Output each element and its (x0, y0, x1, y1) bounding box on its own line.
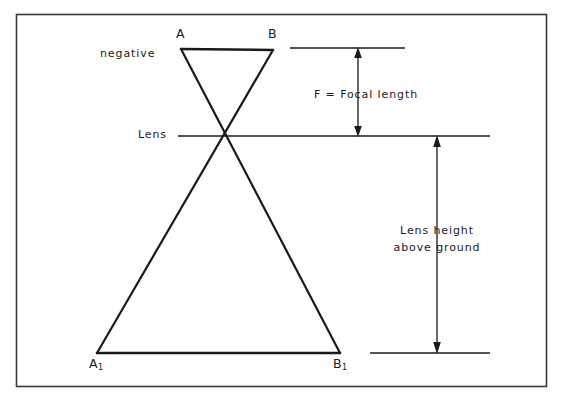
negative-label: negative (100, 48, 155, 60)
point-b1-label: B1 (333, 357, 347, 372)
figure-frame (17, 15, 547, 387)
lens-label: Lens (138, 129, 167, 141)
lens-height-label-line1: Lens height (373, 222, 501, 239)
lens-height-label-line2: above ground (373, 239, 501, 256)
figure-root: negative A B A1 B1 Lens F = Focal length… (0, 0, 562, 407)
point-a1-subscript: 1 (98, 363, 103, 372)
point-a1-label: A1 (89, 357, 103, 372)
focal-length-label: F = Focal length (314, 89, 418, 101)
lens-height-arrowhead-up (433, 135, 441, 147)
point-a1-base: A (89, 356, 98, 371)
negative-plane-segment-AB (181, 49, 273, 50)
point-b1-subscript: 1 (342, 363, 347, 372)
lens-height-label: Lens height above ground (373, 222, 501, 256)
point-b-label: B (268, 27, 277, 40)
point-a-label: A (176, 27, 185, 40)
ray-B-to-A1 (97, 50, 273, 353)
lens-height-arrowhead-down (433, 342, 441, 354)
point-b1-base: B (333, 356, 342, 371)
diagram-canvas (0, 0, 562, 407)
